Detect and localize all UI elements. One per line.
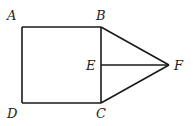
- segment-bf: [101, 27, 169, 65]
- label-d: D: [6, 106, 18, 121]
- label-f: F: [173, 58, 184, 73]
- label-c: C: [96, 106, 106, 121]
- label-a: A: [6, 8, 16, 23]
- label-b: B: [95, 8, 106, 23]
- segment-cf: [101, 65, 169, 103]
- triangle-bcf: [101, 27, 169, 103]
- label-e: E: [85, 58, 96, 73]
- geometry-diagram: A B E F D C: [0, 0, 193, 126]
